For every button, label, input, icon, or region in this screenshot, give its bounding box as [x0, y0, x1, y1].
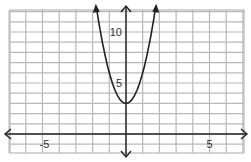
- parabola-graph: -55510: [0, 0, 251, 162]
- x-tick-label: -5: [40, 138, 50, 150]
- curve-left-arrow-icon: [93, 4, 100, 13]
- y-tick-label: 5: [116, 77, 122, 89]
- y-tick-label: 10: [110, 26, 122, 38]
- curve-right-arrow-icon: [152, 4, 159, 13]
- x-tick-label: 5: [206, 138, 212, 150]
